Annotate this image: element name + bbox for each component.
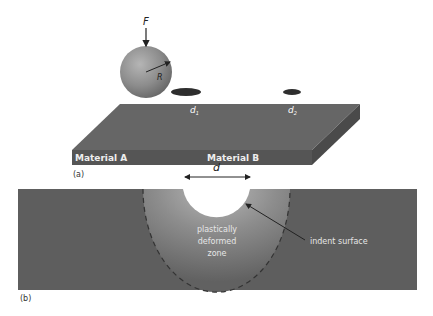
zone-label-line3: zone: [207, 249, 226, 258]
indent-surface-label: indent surface: [310, 237, 368, 246]
force-label: F: [143, 16, 149, 27]
indentation-diagram: F R d1 d2 Material A Material B (a) d in…: [0, 0, 433, 316]
material-a-label: Material A: [75, 153, 127, 163]
radius-label: R: [157, 73, 163, 82]
indent-a: [171, 88, 201, 96]
indent-b: [283, 89, 301, 95]
zone-label-line2: deformed: [198, 237, 237, 246]
caption-a: (a): [73, 170, 84, 179]
diameter-label: d: [213, 161, 221, 174]
zone-label-line1: plastically: [197, 225, 237, 234]
caption-b: (b): [20, 294, 31, 303]
